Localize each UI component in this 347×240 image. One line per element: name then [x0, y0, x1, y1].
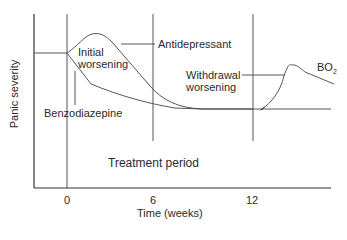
x-axis-label: Time (weeks) — [137, 207, 203, 219]
antidepressant-label: Antidepressant — [158, 38, 231, 50]
arrow-icon — [259, 106, 265, 111]
initial-worsening-label-line2: worsening — [78, 58, 128, 70]
treatment-period-label: Treatment period — [108, 157, 199, 169]
y-axis-label: Panic severity — [8, 54, 20, 134]
bo2-label: BO2 — [317, 61, 337, 78]
withdrawal-worsening-label-line1: Withdrawal — [186, 69, 240, 81]
x-tick-12: 12 — [246, 194, 258, 206]
bo2-subscript: 2 — [333, 68, 337, 75]
bo2-text: BO — [317, 61, 333, 73]
x-tick-0: 0 — [64, 194, 70, 206]
benzodiazepine-label: Benzodiazepine — [44, 107, 122, 119]
initial-worsening-label-line1: Initial — [78, 46, 104, 58]
x-tick-6: 6 — [150, 194, 156, 206]
withdrawal-worsening-label-line2: worsening — [186, 81, 236, 93]
